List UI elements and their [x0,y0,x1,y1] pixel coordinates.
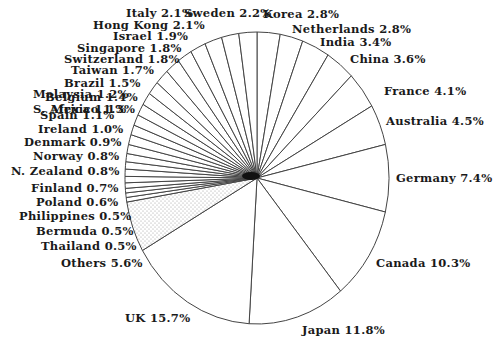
slice-label-brazil: Brazil 1.5% [64,78,141,90]
slice-label-korea: Korea 2.8% [263,9,339,21]
slice-label-others: Others 5.6% [61,258,143,270]
pie-slices [125,32,389,324]
slice-label-taiwan: Taiwan 1.7% [71,65,154,77]
slice-label-norway: Norway 0.8% [33,151,120,163]
slice-label-uk: UK 15.7% [125,313,190,325]
slice-label-thailand: Thailand 0.5% [41,241,137,253]
slice-label-bermuda: Bermuda 0.5% [36,226,134,238]
slice-label-germany: Germany 7.4% [396,173,492,185]
slice-label-india: India 3.4% [320,37,392,49]
slice-label-belgium: Belgium 1.4% [45,92,138,104]
slice-label-japan: Japan 11.8% [302,325,385,337]
slice-label-switzerland: Switzerland 1.8% [64,54,180,66]
pie-center-hub [242,172,260,180]
slice-label-singapore: Singapore 1.8% [77,43,182,55]
slice-label-sweden: Sweden 2.2% [184,8,271,20]
slice-label-china: China 3.6% [350,54,426,66]
slice-label-n-zealand: N. Zealand 0.8% [11,166,120,178]
slice-label-israel: Israel 1.9% [113,31,188,43]
slice-label-denmark: Denmark 0.9% [24,137,122,149]
slice-label-france: France 4.1% [384,86,466,98]
slice-label-philippines: Philippines 0.5% [19,211,131,223]
slice-label-australia: Australia 4.5% [386,116,484,128]
slice-label-mexico: Mexico 1.3% [51,104,135,116]
slice-label-finland: Finland 0.7% [31,183,119,195]
slice-label-poland: Poland 0.6% [36,197,118,209]
slice-label-hong-kong: Hong Kong 2.1% [93,20,205,32]
slice-label-canada: Canada 10.3% [376,258,470,270]
slice-label-netherlands: Netherlands 2.8% [292,24,411,36]
slice-label-ireland: Ireland 1.0% [38,124,124,136]
